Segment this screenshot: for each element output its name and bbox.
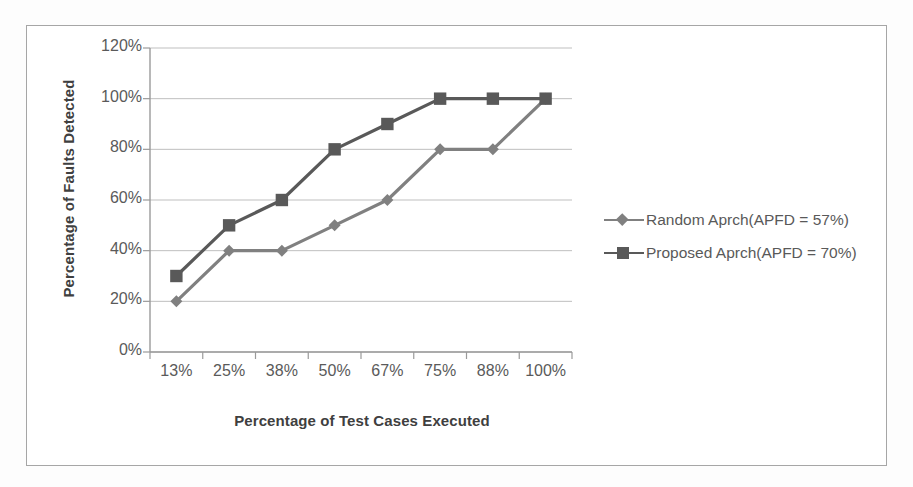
y-axis-tick-label: 0%	[68, 341, 142, 359]
x-axis-tick-label: 100%	[519, 362, 573, 380]
y-axis-tick-label: 40%	[68, 240, 142, 258]
x-axis-tick-label: 75%	[413, 362, 467, 380]
legend-item-random[interactable]: Random Aprch(APFD = 57%)	[604, 203, 857, 236]
y-axis-tick-label: 100%	[68, 88, 142, 106]
data-point-marker[interactable]	[539, 92, 551, 104]
x-axis-tick-label: 88%	[466, 362, 520, 380]
data-point-marker[interactable]	[276, 194, 288, 206]
y-axis-tick-label: 120%	[68, 37, 142, 55]
x-axis-tick-label: 50%	[308, 362, 362, 380]
data-point-marker[interactable]	[276, 245, 288, 257]
y-axis-ticks	[143, 48, 150, 352]
data-point-marker[interactable]	[328, 143, 340, 155]
legend-item-proposed[interactable]: Proposed Aprch(APFD = 70%)	[604, 236, 857, 269]
diamond-icon	[616, 213, 628, 225]
y-axis-title: Percentage of Faults Detected	[60, 59, 77, 319]
y-axis-tick-label: 60%	[68, 189, 142, 207]
data-point-marker[interactable]	[170, 270, 182, 282]
data-point-marker[interactable]	[329, 219, 341, 231]
data-point-marker[interactable]	[487, 92, 499, 104]
y-axis-tick-label: 20%	[68, 290, 142, 308]
data-point-marker[interactable]	[434, 92, 446, 104]
square-icon	[617, 247, 629, 259]
x-axis-tick-label: 67%	[360, 362, 414, 380]
legend-marker-diamond-icon	[604, 212, 644, 228]
legend-label-random: Random Aprch(APFD = 57%)	[644, 211, 849, 229]
legend-label-proposed: Proposed Aprch(APFD = 70%)	[644, 244, 857, 262]
data-point-marker[interactable]	[381, 118, 393, 130]
x-axis-tick-label: 25%	[202, 362, 256, 380]
x-axis-title: Percentage of Test Cases Executed	[150, 412, 574, 429]
chart-legend: Random Aprch(APFD = 57%) Proposed Aprch(…	[604, 203, 857, 269]
y-axis-tick-label: 80%	[68, 138, 142, 156]
data-point-marker[interactable]	[223, 219, 235, 231]
x-axis-tick-label: 13%	[149, 362, 203, 380]
x-axis-ticks	[150, 352, 572, 359]
legend-marker-square-icon	[604, 245, 644, 261]
gridlines	[150, 48, 572, 352]
x-axis-tick-label: 38%	[255, 362, 309, 380]
